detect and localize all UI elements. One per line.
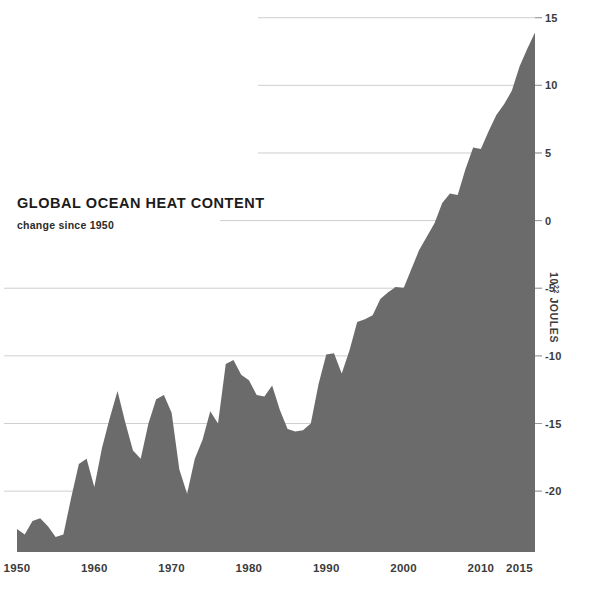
area-fill (17, 33, 535, 552)
x-tick-label: 2000 (390, 562, 417, 574)
x-tick-label: 1960 (81, 562, 108, 574)
x-tick-label: 2015 (506, 562, 533, 574)
x-tick-label: 1980 (235, 562, 262, 574)
page-title: GLOBAL OCEAN HEAT CONTENT (17, 196, 265, 212)
chart-figure: GLOBAL OCEAN HEAT CONTENT change since 1… (0, 0, 592, 597)
x-tick-label: 2010 (467, 562, 494, 574)
plot-area (17, 15, 535, 552)
y-tick-label: -20 (545, 485, 562, 497)
area-series (17, 15, 535, 552)
y-tick-label: 10 (545, 79, 558, 91)
y-tick-label: 5 (545, 147, 551, 159)
y-tick-label: -15 (545, 418, 562, 430)
y-tick-label: 0 (545, 215, 551, 227)
x-tick-label: 1950 (4, 562, 31, 574)
x-tick-label: 1970 (158, 562, 185, 574)
y-tick-label: -5 (545, 282, 555, 294)
x-tick-label: 1990 (313, 562, 340, 574)
y-tick-label: -10 (545, 350, 562, 362)
title-block: GLOBAL OCEAN HEAT CONTENT change since 1… (17, 196, 265, 231)
y-tick-label: 15 (545, 12, 558, 24)
chart-subtitle: change since 1950 (17, 219, 265, 231)
